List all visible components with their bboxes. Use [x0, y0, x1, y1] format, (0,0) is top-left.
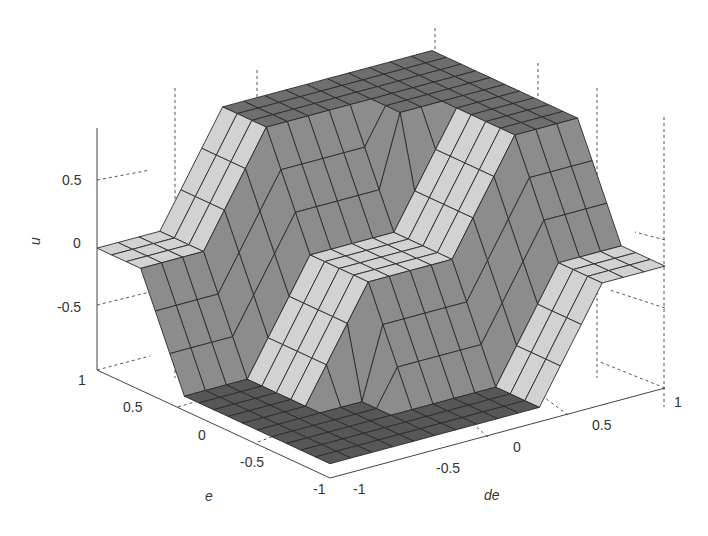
z-tick-label: 0 — [73, 235, 81, 251]
e-tick-label: -1 — [313, 481, 326, 497]
e-axis-label: e — [205, 488, 213, 504]
grid-line — [97, 170, 150, 180]
z-tick-label: 0.5 — [62, 172, 82, 188]
e-tick-label: 1 — [78, 372, 86, 388]
de-tick-label: 0 — [513, 439, 521, 455]
e-tick-label: 0.5 — [123, 399, 143, 415]
de-axis-label: de — [484, 487, 500, 503]
surface-plot-figure: 0.5 0 -0.5 1 0.5 0 -0.5 -1 -1 -0.5 0 0.5… — [0, 0, 708, 536]
surface-mesh — [97, 51, 665, 464]
u-axis-label: u — [27, 237, 43, 245]
surface-plot-canvas: 0.5 0 -0.5 1 0.5 0 -0.5 -1 -1 -0.5 0 0.5… — [0, 0, 708, 536]
grid-line — [635, 232, 665, 240]
de-tick-label: -0.5 — [436, 460, 460, 476]
de-tick-label: -1 — [353, 481, 366, 497]
de-tick-label: 0.5 — [592, 417, 612, 433]
grid-line — [97, 292, 150, 305]
e-tick-label: 0 — [198, 427, 206, 443]
grid-line — [97, 356, 150, 370]
grid-line — [610, 290, 665, 308]
grid-line — [600, 362, 665, 388]
e-tick-label: -0.5 — [240, 454, 264, 470]
de-tick-label: 1 — [674, 394, 682, 410]
z-tick-label: -0.5 — [57, 299, 81, 315]
